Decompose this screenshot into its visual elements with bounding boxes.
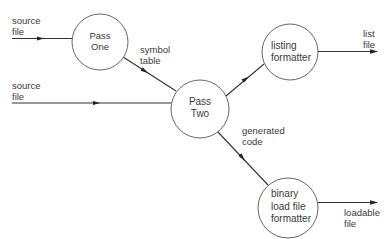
node-binary-formatter-line2: load file [271,201,323,214]
node-pass-one: Pass One [80,30,120,52]
label-source-file-1-line2: file [12,26,41,37]
label-symbol-table-line2: table [140,55,170,66]
label-symbol-table: symbol table [140,44,170,66]
label-generated-code: generated code [242,125,285,147]
label-source-file-1: source file [12,15,41,37]
node-binary-formatter-line1: binary [271,188,323,201]
node-listing-formatter-line1: listing [271,40,321,52]
node-pass-one-line1: Pass [80,30,120,41]
label-source-file-2-line1: source [12,80,41,91]
arrowhead-icon [37,37,44,41]
label-list-file-line1: list [363,28,375,39]
label-symbol-table-line1: symbol [140,44,170,55]
node-binary-formatter-line3: formatter [271,213,323,226]
node-pass-two: Pass Two [180,96,220,120]
node-pass-one-line2: One [80,41,120,52]
label-loadable-file-line1: loadable [344,207,380,218]
arrowhead-icon [141,67,149,73]
label-source-file-2: source file [12,80,41,102]
node-listing-formatter: listing formatter [271,40,321,64]
label-source-file-1-line1: source [12,15,41,26]
node-binary-formatter: binary load file formatter [271,188,323,226]
label-list-file-line2: file [363,39,375,50]
arrowhead-icon [93,101,100,105]
node-pass-two-line1: Pass [180,96,220,108]
arrowhead-icon [370,200,378,204]
label-generated-code-line1: generated [242,125,285,136]
label-source-file-2-line2: file [12,91,41,102]
node-listing-formatter-line2: formatter [271,52,321,64]
node-pass-two-line2: Two [180,108,220,120]
label-list-file: list file [363,28,375,50]
label-loadable-file: loadable file [344,207,380,229]
label-generated-code-line2: code [242,136,285,147]
label-loadable-file-line2: file [344,218,380,229]
